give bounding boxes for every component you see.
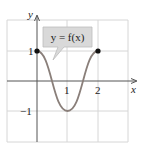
y-tick-minus-1: −1 [20,105,32,117]
endpoint-left [34,48,39,53]
y-axis-label: y [27,8,33,20]
callout-label: y = f(x) [51,31,85,44]
endpoint-right [95,48,100,53]
function-graph: y x 1 2 1 −1 y = f(x) [0,0,142,150]
x-tick-1: 1 [64,84,70,96]
x-tick-2: 2 [95,84,101,96]
y-tick-1: 1 [28,45,34,57]
x-axis-label: x [130,83,136,95]
